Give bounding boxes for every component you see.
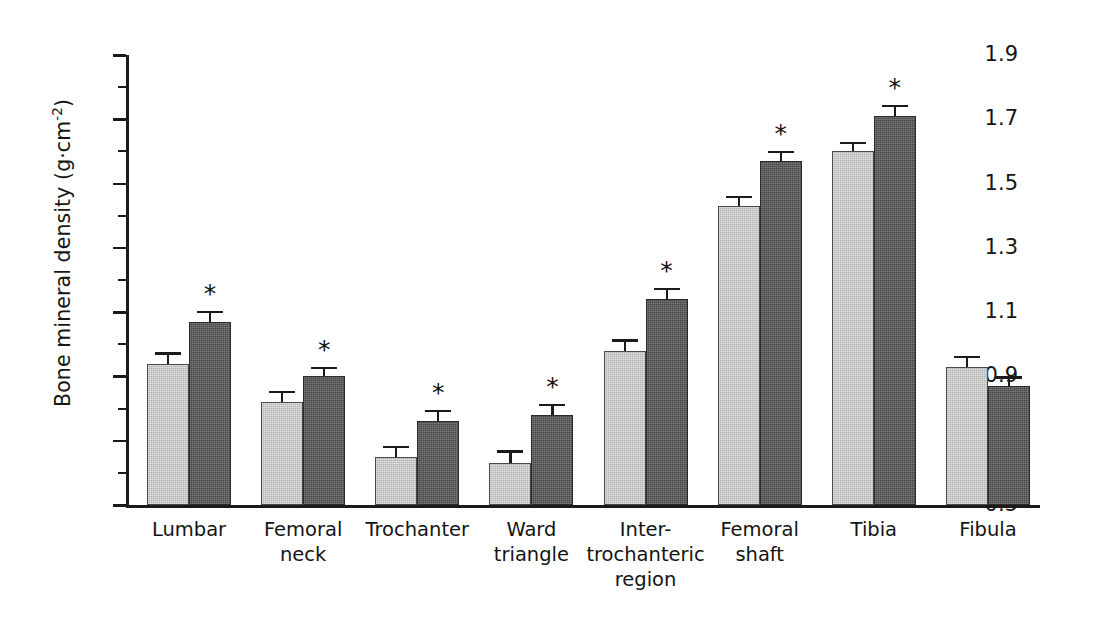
y-tick-major <box>113 54 126 57</box>
error-bar-cap <box>155 352 181 354</box>
y-tick-label: 1.1 <box>954 299 1018 323</box>
y-tick-minor <box>118 279 126 281</box>
error-bar-cap <box>311 367 337 369</box>
y-axis-title-tail: ) <box>51 99 75 107</box>
y-tick-major <box>113 440 126 443</box>
y-tick-minor <box>118 150 126 152</box>
y-tick-minor <box>118 472 126 474</box>
bar-dark <box>646 299 688 505</box>
bar-light <box>261 402 303 505</box>
error-bar-cap <box>425 410 451 412</box>
bar-dark <box>531 415 573 505</box>
y-tick-major <box>113 118 126 121</box>
significance-asterisk: * <box>423 380 453 405</box>
bar-dark <box>417 421 459 505</box>
bar-light <box>375 457 417 505</box>
x-category-label-line: Fibula <box>908 517 1068 542</box>
bar-dark <box>303 376 345 505</box>
y-axis-title: Bone mineral density (g·cm-2) <box>49 73 75 433</box>
y-tick-major <box>113 375 126 378</box>
x-axis-line <box>126 505 1040 508</box>
y-tick-major <box>113 504 126 507</box>
error-bar-cap <box>497 450 523 452</box>
bar-light <box>147 364 189 505</box>
significance-asterisk: * <box>652 258 682 283</box>
y-tick-label: 1.3 <box>954 235 1018 259</box>
y-tick-major <box>113 247 126 250</box>
error-bar-cap <box>996 376 1022 378</box>
bar-dark <box>874 116 916 505</box>
bar-light <box>832 151 874 505</box>
significance-asterisk: * <box>880 75 910 100</box>
x-category-label-line: region <box>566 567 726 592</box>
error-bar-cap <box>612 339 638 341</box>
y-axis-title-exponent: -2 <box>49 107 65 121</box>
bar-light <box>604 351 646 505</box>
bar-light <box>718 206 760 505</box>
bar-light <box>489 463 531 505</box>
chart-figure: Bone mineral density (g·cm-2) 1.91.71.51… <box>0 0 1102 621</box>
error-bar-cap <box>726 196 752 198</box>
error-bar-cap <box>539 404 565 406</box>
significance-asterisk: * <box>766 121 796 146</box>
bar-dark <box>760 161 802 505</box>
error-bar-cap <box>840 142 866 144</box>
x-category-label-line: neck <box>223 542 383 567</box>
y-axis-title-text: Bone mineral density (g·cm <box>51 121 75 407</box>
y-tick-major <box>113 311 126 314</box>
bar-dark <box>189 322 231 505</box>
y-tick-major <box>113 183 126 186</box>
y-tick-minor <box>118 215 126 217</box>
y-tick-label: 1.9 <box>954 42 1018 66</box>
error-bar-cap <box>383 446 409 448</box>
error-bar-cap <box>954 356 980 358</box>
bar-light <box>946 367 988 505</box>
bar-dark <box>988 386 1030 505</box>
x-category-label-line: shaft <box>680 542 840 567</box>
y-tick-label: 1.5 <box>954 171 1018 195</box>
significance-asterisk: * <box>195 281 225 306</box>
plot-area: 1.91.71.51.31.10.90.70.5 ******* <box>126 55 1040 505</box>
y-tick-label: 1.7 <box>954 106 1018 130</box>
error-bar-cap <box>654 288 680 290</box>
error-bar-cap <box>269 391 295 393</box>
significance-asterisk: * <box>537 374 567 399</box>
y-tick-minor <box>118 86 126 88</box>
significance-asterisk: * <box>309 337 339 362</box>
y-tick-minor <box>118 408 126 410</box>
error-bar-cap <box>882 105 908 107</box>
y-tick-minor <box>118 343 126 345</box>
error-bar-cap <box>197 311 223 313</box>
x-category-label: Fibula <box>908 517 1068 542</box>
y-axis-line <box>126 55 129 508</box>
error-bar-cap <box>768 151 794 153</box>
